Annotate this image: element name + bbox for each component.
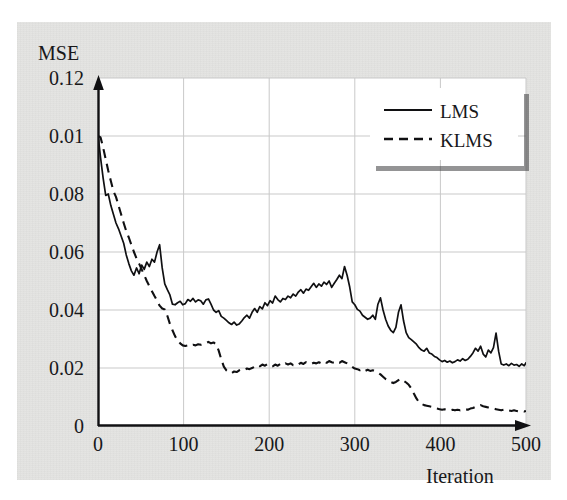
x-tick-label: 0 <box>68 434 128 454</box>
y-tick-label: 0.12 <box>22 68 84 88</box>
legend-label-lms: LMS <box>440 101 479 123</box>
y-tick-label: 0.08 <box>22 184 84 204</box>
y-axis-title: MSE <box>38 43 79 63</box>
y-tick-label: 0.01 <box>22 126 84 146</box>
y-tick-label: 0.04 <box>22 300 84 320</box>
x-tick-label: 200 <box>239 434 299 454</box>
legend-panel: LMS KLMS <box>370 88 518 160</box>
x-tick-label: 500 <box>496 434 556 454</box>
x-tick-label: 400 <box>410 434 470 454</box>
y-tick-label: 0.06 <box>22 242 84 262</box>
y-tick-label: 0.02 <box>22 358 84 378</box>
x-tick-label: 100 <box>154 434 214 454</box>
legend-label-klms: KLMS <box>440 130 493 152</box>
figure-root: MSE Iteration 00.020.040.060.080.010.12 … <box>0 0 567 500</box>
chart-legend: LMS KLMS <box>370 88 518 160</box>
x-tick-label: 300 <box>325 434 385 454</box>
mse-convergence-chart <box>0 0 567 500</box>
y-tick-label: 0 <box>22 416 84 436</box>
x-axis-title: Iteration <box>426 466 494 486</box>
